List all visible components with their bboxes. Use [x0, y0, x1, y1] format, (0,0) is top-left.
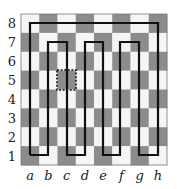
- rank-label-7: 7: [8, 35, 16, 50]
- rank-label-1: 1: [8, 149, 16, 164]
- file-label-g: g: [135, 168, 143, 183]
- square-f4: [112, 90, 131, 109]
- rank-label-5: 5: [8, 73, 16, 88]
- chessboard-diagram: 87654321 abcdefgh: [0, 0, 177, 189]
- square-f6: [112, 52, 131, 71]
- rank-label-2: 2: [8, 130, 16, 145]
- file-label-b: b: [44, 168, 52, 183]
- file-label-c: c: [63, 168, 71, 183]
- rank-label-4: 4: [8, 92, 16, 107]
- file-label-d: d: [81, 168, 89, 183]
- file-labels: abcdefgh: [26, 168, 162, 183]
- square-f3: [112, 108, 131, 127]
- square-f2: [112, 127, 131, 146]
- rank-labels: 87654321: [8, 16, 16, 163]
- file-label-f: f: [118, 168, 126, 183]
- square-f5: [112, 71, 131, 90]
- file-label-a: a: [26, 168, 34, 183]
- board-squares: [21, 14, 167, 165]
- rank-label-3: 3: [8, 111, 16, 126]
- file-label-e: e: [99, 168, 107, 183]
- file-label-h: h: [154, 168, 162, 183]
- rank-label-6: 6: [8, 54, 16, 69]
- rank-label-8: 8: [8, 16, 16, 31]
